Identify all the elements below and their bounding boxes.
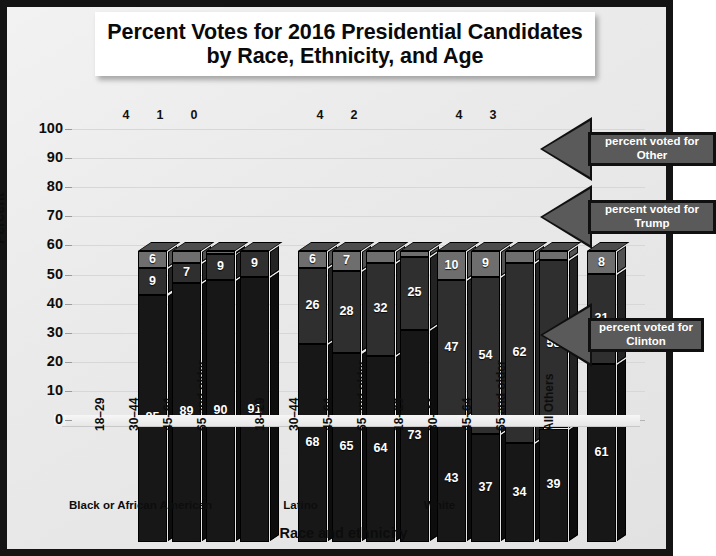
bar-top-value-label: 4 bbox=[107, 108, 145, 122]
bar-segment-other[interactable]: 10 bbox=[437, 251, 466, 280]
bar-top-value-label: 4 bbox=[301, 108, 339, 122]
stacked-bar[interactable]: 61318 bbox=[587, 251, 616, 542]
y-axis-tick-mark bbox=[65, 187, 72, 188]
x-axis-label: Race and ethnicity bbox=[7, 525, 680, 541]
bar-segment-other[interactable]: 6 bbox=[138, 251, 167, 268]
bar-value-label: 64 bbox=[374, 441, 388, 455]
bar-value-label: 54 bbox=[479, 348, 493, 362]
bar-segment-clinton[interactable]: 43 bbox=[437, 417, 466, 542]
y-axis-tick-mark bbox=[65, 158, 72, 159]
y-axis-label: Percent bbox=[0, 193, 7, 244]
bar-segment-clinton[interactable]: 64 bbox=[366, 356, 395, 542]
y-axis-tick-mark bbox=[65, 420, 72, 421]
bar-segment-other[interactable]: 8 bbox=[587, 251, 616, 274]
bar-segment-trump[interactable]: 9 bbox=[206, 254, 235, 280]
bar-value-label: 7 bbox=[343, 253, 350, 267]
bar-value-label: 26 bbox=[306, 298, 320, 312]
bar-top-value-label: 0 bbox=[175, 108, 213, 122]
x-axis-category-label: 18–29 bbox=[93, 398, 107, 431]
callout-label-other: percent voted for Other bbox=[588, 132, 716, 166]
page-title: Percent Votes for 2016 Presidential Cand… bbox=[95, 20, 595, 69]
bar-segment-other[interactable]: 6 bbox=[298, 251, 327, 268]
bar-segment-trump[interactable]: 7 bbox=[172, 263, 201, 283]
bar-value-label: 9 bbox=[149, 274, 156, 288]
bar-value-label: 61 bbox=[595, 445, 609, 459]
y-axis-tick-label: 30 bbox=[19, 324, 63, 340]
y-axis-tick-label: 100 bbox=[19, 120, 63, 136]
bar-segment-clinton[interactable]: 61 bbox=[587, 364, 616, 542]
bar-segment-other[interactable]: 9 bbox=[471, 251, 500, 277]
x-axis-category-label: 18–29 bbox=[253, 398, 267, 431]
bar-segment-trump[interactable]: 47 bbox=[437, 280, 466, 417]
y-axis-tick-mark bbox=[65, 333, 72, 334]
x-axis-category-label: 45–64 bbox=[321, 398, 335, 431]
x-axis-group-label: Black or African American bbox=[51, 499, 231, 511]
x-axis-category-label: 45–64 bbox=[161, 398, 175, 431]
bar-value-label: 9 bbox=[251, 256, 258, 270]
bar-value-label: 28 bbox=[340, 304, 354, 318]
bar-top-value-label: 3 bbox=[474, 108, 512, 122]
y-axis-tick-mark bbox=[65, 304, 72, 305]
bar-segment-trump[interactable]: 32 bbox=[366, 263, 395, 356]
bar-value-label: 8 bbox=[598, 255, 605, 269]
bar-value-label: 25 bbox=[408, 285, 422, 299]
bar-segment-trump[interactable]: 9 bbox=[138, 268, 167, 294]
y-axis-tick-mark bbox=[65, 391, 72, 392]
x-axis-category-label: All Others bbox=[542, 374, 556, 431]
bar-value-label: 68 bbox=[306, 435, 320, 449]
bar-value-label: 37 bbox=[479, 480, 493, 494]
bar-segment-other[interactable]: 7 bbox=[332, 251, 361, 271]
bar-value-label: 62 bbox=[513, 345, 527, 359]
bar-segment-other[interactable] bbox=[172, 251, 201, 263]
x-axis-category-label: 65 and older bbox=[494, 360, 508, 431]
bar-segment-other[interactable] bbox=[400, 251, 429, 257]
x-axis-category-label: 18–29 bbox=[392, 398, 406, 431]
x-axis-category-label: 45–64 bbox=[460, 398, 474, 431]
chart-title-card: Percent Votes for 2016 Presidential Cand… bbox=[95, 12, 595, 76]
bar-segment-other[interactable] bbox=[366, 251, 395, 263]
y-axis-tick-label: 0 bbox=[19, 411, 63, 427]
bar-value-label: 32 bbox=[374, 301, 388, 315]
y-axis-tick-mark bbox=[65, 362, 72, 363]
x-axis-category-label: 65 and older bbox=[195, 360, 209, 431]
bar-value-label: 73 bbox=[408, 428, 422, 442]
y-axis-tick-label: 90 bbox=[19, 149, 63, 165]
y-axis-tick-label: 70 bbox=[19, 207, 63, 223]
bar-segment-trump[interactable]: 26 bbox=[298, 268, 327, 344]
bar-value-label: 6 bbox=[149, 252, 156, 266]
x-axis-category-label: 30–44 bbox=[426, 398, 440, 431]
bar-segment-trump[interactable]: 9 bbox=[240, 251, 269, 277]
gridline bbox=[70, 129, 645, 130]
bar-value-label: 7 bbox=[183, 265, 190, 279]
y-axis-tick-label: 40 bbox=[19, 295, 63, 311]
bar-top-value-label: 2 bbox=[335, 108, 373, 122]
bar-top-value-label: 1 bbox=[141, 108, 179, 122]
bar-value-label: 6 bbox=[309, 252, 316, 266]
y-axis-tick-mark bbox=[65, 216, 72, 217]
bar-top-value-label: 4 bbox=[440, 108, 478, 122]
bar-value-label: 9 bbox=[482, 256, 489, 270]
bar-segment-other[interactable] bbox=[505, 251, 534, 263]
callout-label-trump: percent voted for Trump bbox=[588, 200, 716, 234]
y-axis-tick-mark bbox=[65, 275, 72, 276]
bar-value-label: 43 bbox=[445, 471, 459, 485]
bar-segment-trump[interactable]: 25 bbox=[400, 257, 429, 330]
bar-3d-side-face bbox=[617, 359, 626, 541]
bar-value-label: 9 bbox=[217, 259, 224, 273]
bar-segment-other[interactable] bbox=[539, 251, 568, 260]
bar-value-label: 65 bbox=[340, 439, 354, 453]
x-axis-category-label: 65 and older bbox=[355, 360, 369, 431]
y-axis-tick-label: 80 bbox=[19, 178, 63, 194]
bar-segment-clinton[interactable]: 68 bbox=[298, 344, 327, 542]
bar-3d-side-face bbox=[569, 423, 578, 541]
y-axis-tick-mark bbox=[65, 129, 72, 130]
bar-value-label: 39 bbox=[547, 477, 561, 491]
bar-segment-trump[interactable]: 28 bbox=[332, 271, 361, 352]
gridline bbox=[70, 187, 645, 188]
x-axis-category-label: 30–44 bbox=[127, 398, 141, 431]
y-axis-tick-label: 20 bbox=[19, 353, 63, 369]
callout-label-clinton: percent voted for Clinton bbox=[588, 318, 704, 352]
bar-segment-other[interactable] bbox=[206, 251, 235, 254]
bar-value-label: 47 bbox=[445, 340, 459, 354]
